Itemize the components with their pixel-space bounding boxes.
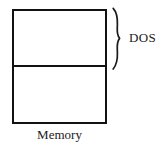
memory-caption: Memory (12, 127, 107, 143)
dos-label: DOS (129, 30, 156, 46)
memory-region-upper (14, 11, 105, 65)
memory-region-lower (14, 67, 105, 122)
memory-diagram-figure: DOS Memory (0, 0, 168, 148)
curly-brace-right-icon (108, 6, 124, 72)
